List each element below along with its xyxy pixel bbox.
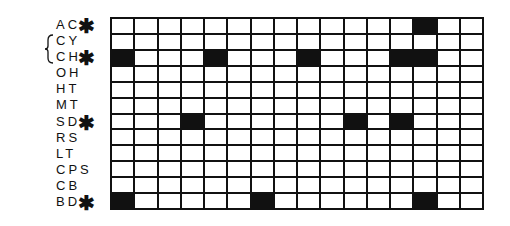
grid-cell: [461, 115, 482, 129]
grid-cell: [414, 194, 435, 208]
grid-cell: [461, 130, 482, 144]
grid-cell: [414, 19, 435, 33]
grid-cell: [159, 162, 180, 176]
grid-cell: [345, 162, 366, 176]
grid-cell: [159, 146, 180, 160]
grid-cell: [159, 130, 180, 144]
grid-cell: [391, 99, 412, 113]
grid-cell: [414, 99, 435, 113]
row-label-ht: HT: [56, 81, 79, 97]
grid-cell: [321, 83, 342, 97]
grid-cell: [275, 162, 296, 176]
grid-cell: [252, 35, 273, 49]
grid-cell: [414, 162, 435, 176]
grid-cell: [112, 51, 133, 65]
grid-cell: [321, 115, 342, 129]
grid-cell: [345, 67, 366, 81]
grid-cell: [135, 162, 156, 176]
grid-cell: [461, 99, 482, 113]
grid-cell: [391, 146, 412, 160]
grid-cell: [321, 162, 342, 176]
grid-cell: [252, 162, 273, 176]
grid-cell: [275, 35, 296, 49]
grid-cell: [112, 67, 133, 81]
grid-cell: [228, 99, 249, 113]
grid-cell: [205, 115, 226, 129]
grid-cell: [275, 130, 296, 144]
grid-cell: [275, 194, 296, 208]
grid-cell: [275, 83, 296, 97]
grid-cell: [368, 162, 389, 176]
grid-cell: [159, 83, 180, 97]
grid-cell: [414, 115, 435, 129]
grid-cell: [159, 178, 180, 192]
grid-cell: [135, 67, 156, 81]
grid-cell: [298, 115, 319, 129]
grid-cell: [298, 35, 319, 49]
bracket-icon: [44, 34, 54, 64]
asterisk-icon: ✱: [78, 194, 95, 210]
grid-cell: [182, 83, 203, 97]
grid-cell: [368, 99, 389, 113]
grid-cell: [368, 178, 389, 192]
grid-cell: [159, 35, 180, 49]
grid-cell: [112, 178, 133, 192]
grid-cell: [275, 51, 296, 65]
grid-cell: [345, 83, 366, 97]
grid-cell: [438, 194, 459, 208]
grid-cell: [391, 130, 412, 144]
grid-cell: [112, 162, 133, 176]
grid-cell: [112, 115, 133, 129]
grid-cell: [252, 115, 273, 129]
grid-cell: [228, 35, 249, 49]
grid-cell: [461, 19, 482, 33]
grid-cell: [182, 19, 203, 33]
grid-cell: [205, 67, 226, 81]
grid-cell: [228, 115, 249, 129]
row-label-lt: LT: [56, 146, 76, 162]
grid-cell: [228, 19, 249, 33]
grid-cell: [461, 146, 482, 160]
grid-cell: [112, 99, 133, 113]
occupancy-grid: [110, 17, 484, 210]
grid-cell: [112, 35, 133, 49]
grid-cell: [112, 146, 133, 160]
grid-cell: [391, 194, 412, 208]
grid-cell: [461, 178, 482, 192]
grid-cell: [345, 178, 366, 192]
grid-cell: [368, 19, 389, 33]
grid-cell: [391, 115, 412, 129]
grid-cell: [414, 146, 435, 160]
grid-cell: [321, 178, 342, 192]
grid-cell: [438, 130, 459, 144]
row-label-cy: CY: [56, 33, 80, 49]
grid-cell: [205, 130, 226, 144]
grid-cell: [205, 19, 226, 33]
asterisk-icon: ✱: [78, 114, 95, 130]
row-label-oh: OH: [56, 65, 82, 81]
grid-cell: [368, 130, 389, 144]
grid-cell: [252, 51, 273, 65]
grid-cell: [205, 178, 226, 192]
grid-cell: [298, 194, 319, 208]
grid-cell: [345, 194, 366, 208]
grid-cell: [345, 99, 366, 113]
grid-cell: [321, 99, 342, 113]
grid-cell: [205, 194, 226, 208]
grid-cell: [135, 130, 156, 144]
grid-cell: [135, 178, 156, 192]
asterisk-icon: ✱: [78, 17, 95, 33]
grid-cell: [182, 67, 203, 81]
grid-cell: [135, 19, 156, 33]
grid-cell: [252, 146, 273, 160]
grid-cell: [438, 146, 459, 160]
grid-cell: [182, 51, 203, 65]
grid-cell: [368, 51, 389, 65]
grid-cell: [391, 51, 412, 65]
grid-cell: [252, 83, 273, 97]
grid-cell: [391, 67, 412, 81]
grid-cell: [252, 178, 273, 192]
grid-cell: [228, 130, 249, 144]
grid-cell: [461, 51, 482, 65]
grid-cell: [414, 178, 435, 192]
